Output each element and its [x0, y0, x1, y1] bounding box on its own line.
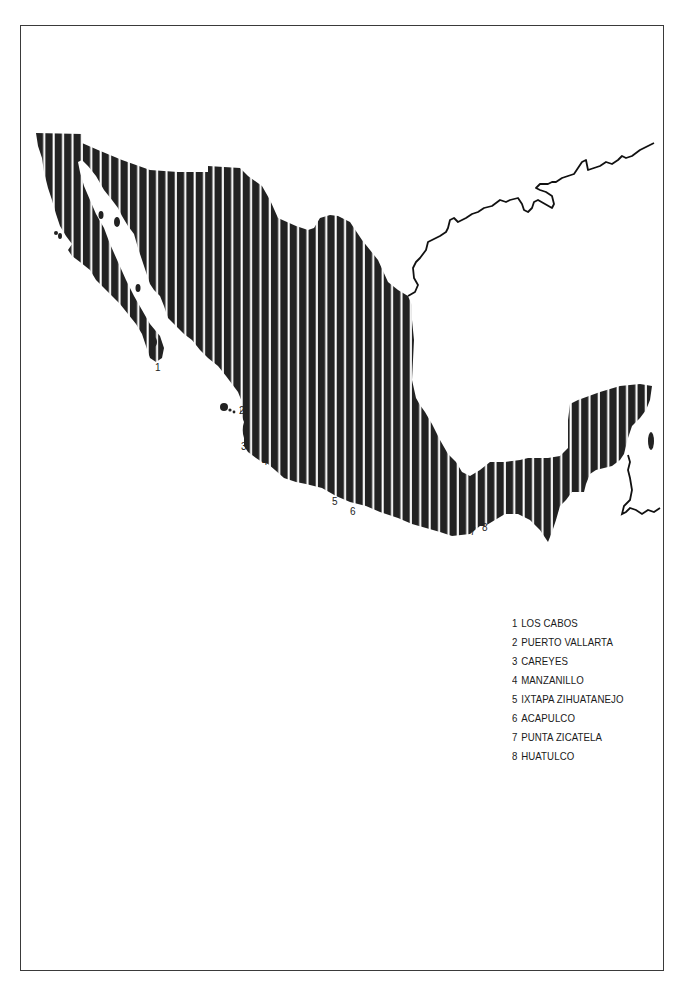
marker-2: 2 — [239, 405, 245, 416]
marker-3: 3 — [241, 441, 247, 452]
central-america-border — [622, 455, 660, 514]
map-legend: 1LOS CABOS 2PUERTO VALLARTA 3CAREYES 4MA… — [512, 614, 633, 766]
legend-item: 4MANZANILLO — [512, 671, 624, 690]
legend-item: 6ACAPULCO — [512, 709, 624, 728]
marker-5: 5 — [332, 496, 338, 507]
legend-item: 2PUERTO VALLARTA — [512, 633, 624, 652]
marker-4: 4 — [262, 456, 268, 467]
island — [114, 217, 120, 227]
legend-item: 3CAREYES — [512, 652, 624, 671]
marker-8: 8 — [482, 522, 488, 533]
island — [99, 211, 104, 219]
island — [220, 403, 228, 411]
island — [648, 432, 654, 450]
island — [228, 408, 231, 411]
marker-7: 7 — [470, 526, 476, 537]
legend-item: 5IXTAPA ZIHUATANEJO — [512, 690, 624, 709]
island — [58, 233, 62, 239]
marker-6: 6 — [350, 506, 356, 517]
mexico-landmass — [36, 133, 652, 542]
island — [151, 337, 157, 347]
island — [233, 411, 236, 414]
legend-item: 1LOS CABOS — [512, 614, 624, 633]
marker-1: 1 — [155, 362, 161, 373]
us-gulf-coastline — [408, 143, 654, 296]
legend-item: 8HUATULCO — [512, 747, 624, 766]
mexico-map: 1 2 3 4 5 6 7 8 — [0, 0, 686, 993]
legend-item: 7PUNTA ZICATELA — [512, 728, 624, 747]
island — [54, 231, 58, 235]
island — [136, 284, 141, 292]
